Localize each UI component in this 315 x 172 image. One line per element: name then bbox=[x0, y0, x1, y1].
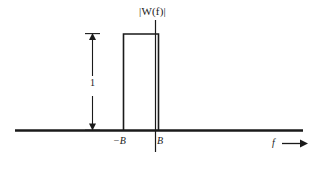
arrowhead-right bbox=[300, 140, 308, 148]
filter-magnitude-figure: |W(f)| 1 −B B f bbox=[0, 0, 315, 172]
amplitude-value-label: 1 bbox=[88, 76, 97, 90]
positive-bandwidth-tick-label: B bbox=[157, 136, 163, 146]
figure-canvas bbox=[0, 0, 315, 172]
rectangular-pulse-outline bbox=[124, 34, 159, 130]
negative-bandwidth-tick-label: −B bbox=[113, 136, 126, 146]
magnitude-axis-label: |W(f)| bbox=[139, 6, 166, 17]
frequency-axis-arrow bbox=[282, 140, 308, 148]
frequency-axis-label: f bbox=[272, 138, 275, 148]
